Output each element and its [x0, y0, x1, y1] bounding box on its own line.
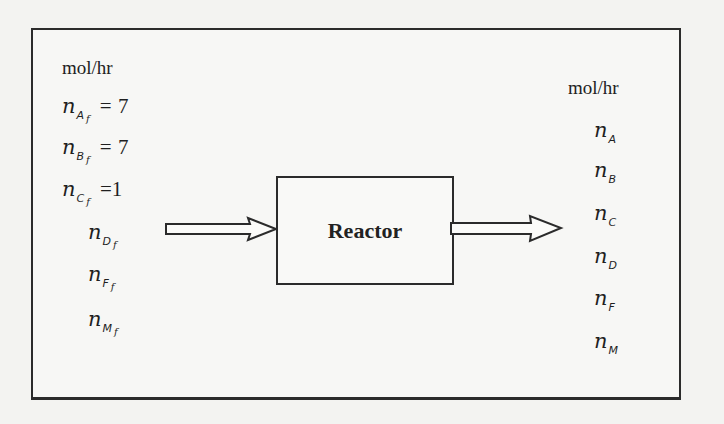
- feed-subscript: f: [86, 154, 90, 165]
- flow-symbol: n: [594, 286, 608, 310]
- inlet-units-label: mol/hr: [62, 58, 113, 77]
- flow-symbol: n: [62, 177, 76, 201]
- species-subscript: A: [77, 109, 85, 122]
- outlet-stream-A: nA: [594, 120, 616, 141]
- flow-symbol: n: [62, 135, 76, 159]
- inlet-stream-B: nBf= 7: [62, 137, 128, 158]
- species-subscript: F: [103, 277, 109, 290]
- flow-symbol: n: [88, 307, 102, 331]
- equals-sign: =: [100, 177, 112, 201]
- flow-symbol: n: [88, 262, 102, 286]
- reactor-box: Reactor: [276, 176, 454, 285]
- feed-subscript: f: [86, 113, 90, 124]
- flow-value: 7: [118, 135, 129, 159]
- flow-symbol: n: [594, 244, 608, 268]
- feed-subscript: f: [86, 196, 90, 207]
- outlet-stream-D: nD: [594, 246, 617, 267]
- flow-symbol: n: [594, 118, 608, 142]
- feed-subscript: f: [113, 239, 117, 250]
- flow-value: 7: [118, 94, 129, 118]
- outlet-arrow-icon: [451, 212, 565, 246]
- species-subscript: D: [103, 235, 111, 248]
- species-subscript: D: [609, 259, 617, 272]
- inlet-stream-D: nDf: [88, 222, 117, 243]
- species-subscript: A: [609, 133, 617, 146]
- outlet-stream-M: nM: [594, 331, 618, 352]
- outlet-units-label: mol/hr: [568, 78, 619, 97]
- species-subscript: B: [77, 150, 85, 163]
- species-subscript: M: [609, 344, 619, 357]
- flow-symbol: n: [594, 158, 608, 182]
- species-subscript: M: [103, 322, 113, 335]
- inlet-stream-M: nMf: [88, 309, 118, 330]
- flow-symbol: n: [62, 94, 76, 118]
- outlet-stream-F: nF: [594, 288, 615, 309]
- species-subscript: C: [609, 216, 617, 229]
- inlet-stream-A: nAf= 7: [62, 96, 128, 117]
- inlet-arrow-icon: [164, 214, 278, 246]
- equals-sign: =: [100, 135, 112, 159]
- reactor-label: Reactor: [328, 218, 403, 244]
- species-subscript: B: [609, 173, 617, 186]
- inlet-stream-F: nFf: [88, 264, 115, 285]
- equals-sign: =: [100, 94, 112, 118]
- flow-symbol: n: [88, 220, 102, 244]
- species-subscript: F: [609, 301, 615, 314]
- inlet-stream-C: nCf=1: [62, 179, 122, 200]
- feed-subscript: f: [111, 281, 115, 292]
- feed-subscript: f: [114, 326, 118, 337]
- outlet-stream-C: nC: [594, 203, 616, 224]
- flow-symbol: n: [594, 201, 608, 225]
- outlet-stream-B: nB: [594, 160, 616, 181]
- species-subscript: C: [77, 192, 85, 205]
- flow-symbol: n: [594, 329, 608, 353]
- flow-value: 1: [112, 177, 123, 201]
